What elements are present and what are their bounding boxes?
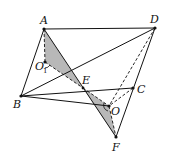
label-b: B bbox=[12, 98, 21, 111]
point-a bbox=[42, 27, 45, 30]
label-d: D bbox=[149, 13, 159, 26]
point-c bbox=[131, 86, 134, 89]
segment-af bbox=[44, 29, 116, 137]
label-a: A bbox=[39, 14, 48, 27]
point-d bbox=[153, 26, 156, 29]
label-c: C bbox=[137, 83, 146, 96]
segment-ad bbox=[44, 28, 155, 29]
point-e bbox=[82, 87, 85, 90]
label-f: F bbox=[111, 141, 120, 154]
segment-co bbox=[109, 88, 133, 106]
label-e: E bbox=[81, 74, 90, 87]
label-o1-subscript: 1 bbox=[43, 67, 47, 75]
segment-bc bbox=[21, 88, 133, 96]
label-o: O bbox=[111, 105, 120, 118]
point-f bbox=[114, 135, 117, 138]
geometry-figure: A D B C E O O 1 F bbox=[0, 0, 170, 164]
